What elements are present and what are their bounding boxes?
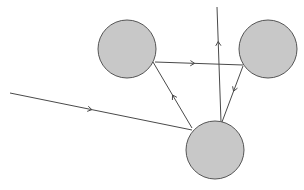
node-A <box>98 20 156 78</box>
node-B <box>239 20 297 78</box>
edge-A-to-B <box>155 62 243 65</box>
edge-incoming <box>10 93 192 130</box>
edge-B-to-C <box>222 66 243 122</box>
nodes <box>98 20 297 179</box>
network-diagram <box>0 0 304 190</box>
node-C <box>186 121 244 179</box>
